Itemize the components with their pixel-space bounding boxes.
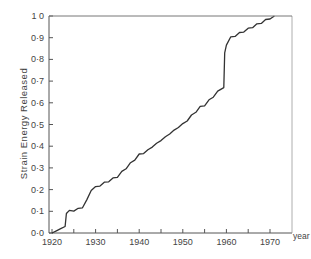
y-tick-label: 0·6 — [31, 98, 44, 108]
x-axis-label: year — [293, 231, 310, 241]
y-tick-label: 0·7 — [31, 76, 44, 86]
x-tick-label: 1970 — [260, 237, 280, 247]
strain-energy-chart: 0·00·10·20·30·40·50·60·70·80·91 0 192019… — [0, 0, 311, 259]
y-tick-label: 0·2 — [31, 185, 44, 195]
x-tick-label: 1920 — [42, 237, 62, 247]
y-tick-label: 0·1 — [31, 206, 44, 216]
y-tick-label: 1 0 — [31, 11, 44, 21]
y-axis-ticks: 0·00·10·20·30·40·50·60·70·80·91 0 — [31, 11, 53, 238]
axes — [49, 16, 292, 233]
y-tick-label: 0·9 — [31, 33, 44, 43]
y-tick-label: 0·4 — [31, 141, 44, 151]
x-axis-ticks: 192019301940195019601970 — [42, 229, 280, 247]
x-tick-label: 1950 — [173, 237, 193, 247]
x-tick-label: 1930 — [86, 237, 106, 247]
y-tick-label: 0·5 — [31, 120, 44, 130]
data-line — [52, 16, 274, 233]
y-axis-label: Strain Energy Released — [18, 59, 29, 189]
y-tick-label: 0·8 — [31, 54, 44, 64]
y-tick-label: 0·3 — [31, 163, 44, 173]
x-tick-label: 1940 — [129, 237, 149, 247]
x-tick-label: 1960 — [216, 237, 236, 247]
